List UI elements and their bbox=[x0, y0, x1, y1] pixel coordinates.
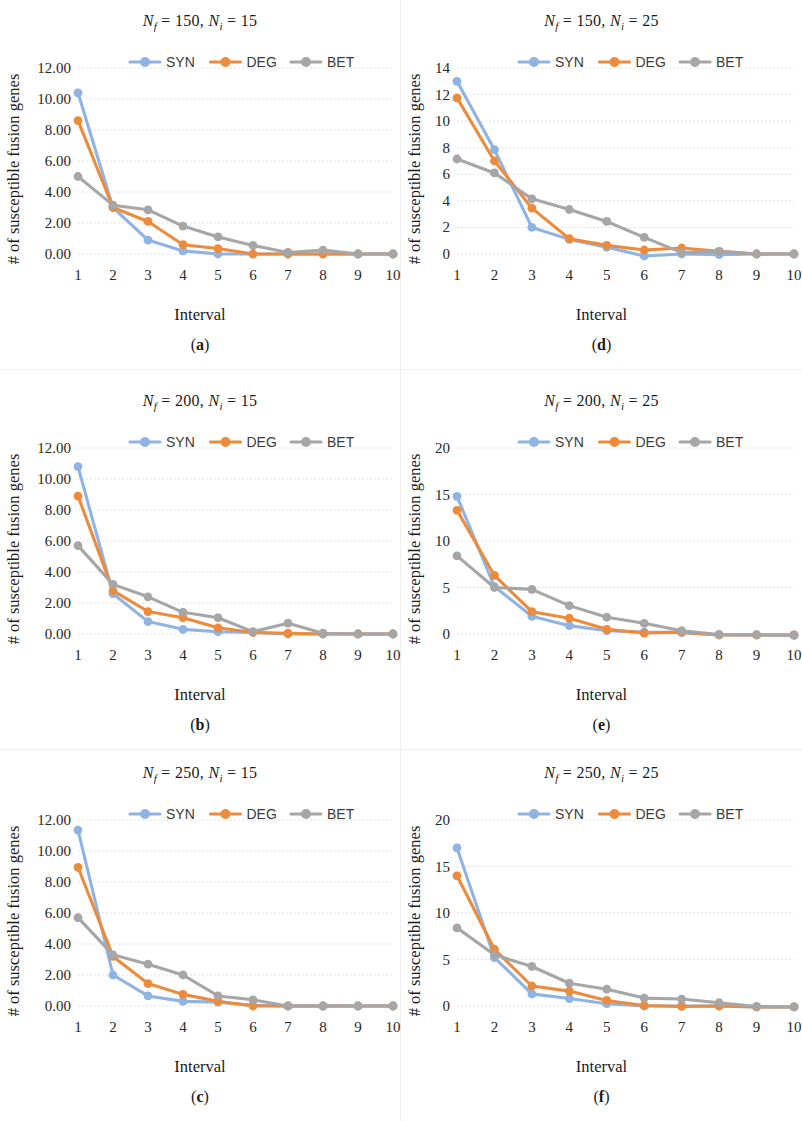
svg-text:8.00: 8.00 bbox=[45, 874, 71, 890]
chart-svg-a: 0.002.004.006.008.0010.0012.001234567891… bbox=[0, 36, 401, 301]
title-nf-value-c: 250 bbox=[175, 764, 200, 781]
svg-text:6: 6 bbox=[640, 1019, 648, 1035]
svg-text:BET: BET bbox=[716, 434, 744, 450]
chart-svg-b: 0.002.004.006.008.0010.0012.001234567891… bbox=[0, 416, 401, 681]
svg-text:15: 15 bbox=[435, 487, 450, 503]
svg-text:5: 5 bbox=[443, 952, 451, 968]
subfigure-label-b: (b) bbox=[0, 716, 400, 734]
svg-text:DEG: DEG bbox=[247, 806, 277, 822]
title-ni-value-d: 25 bbox=[642, 12, 659, 29]
svg-text:SYN: SYN bbox=[166, 806, 195, 822]
title-nf-value-b: 200 bbox=[175, 392, 200, 409]
svg-text:BET: BET bbox=[327, 54, 355, 70]
x-axis-label-b: Interval bbox=[0, 685, 400, 705]
plot-area-d: # of susceptible fusion genes 0246810121… bbox=[401, 36, 802, 301]
svg-text:10: 10 bbox=[435, 113, 450, 129]
svg-text:1: 1 bbox=[74, 267, 82, 283]
svg-text:2: 2 bbox=[109, 1019, 117, 1035]
svg-text:1: 1 bbox=[74, 647, 82, 663]
svg-text:DEG: DEG bbox=[636, 434, 666, 450]
svg-text:2: 2 bbox=[491, 1019, 499, 1035]
svg-text:20: 20 bbox=[435, 440, 450, 456]
svg-text:1: 1 bbox=[453, 267, 461, 283]
title-nf-value-a: 150 bbox=[175, 12, 200, 29]
svg-text:3: 3 bbox=[144, 1019, 152, 1035]
svg-text:12: 12 bbox=[435, 87, 450, 103]
svg-text:8.00: 8.00 bbox=[45, 122, 71, 138]
svg-text:8: 8 bbox=[715, 1019, 723, 1035]
chart-title-f: Nf = 250, Ni = 25 bbox=[401, 764, 802, 784]
svg-text:10.00: 10.00 bbox=[37, 91, 71, 107]
svg-text:7: 7 bbox=[678, 1019, 686, 1035]
svg-text:9: 9 bbox=[753, 1019, 761, 1035]
svg-text:0.00: 0.00 bbox=[45, 246, 71, 262]
svg-text:6: 6 bbox=[249, 1019, 257, 1035]
svg-text:9: 9 bbox=[753, 647, 761, 663]
svg-text:5: 5 bbox=[603, 267, 611, 283]
chart-panel-f: Nf = 250, Ni = 25 # of susceptible fusio… bbox=[401, 750, 802, 1121]
title-ni-value-a: 15 bbox=[241, 12, 258, 29]
subfigure-label-d: (d) bbox=[401, 336, 802, 354]
svg-text:DEG: DEG bbox=[636, 806, 666, 822]
svg-text:8: 8 bbox=[715, 647, 723, 663]
svg-text:10.00: 10.00 bbox=[37, 471, 71, 487]
svg-text:3: 3 bbox=[528, 1019, 536, 1035]
svg-text:10.00: 10.00 bbox=[37, 843, 71, 859]
svg-text:9: 9 bbox=[753, 267, 761, 283]
svg-text:12.00: 12.00 bbox=[37, 60, 71, 76]
svg-text:9: 9 bbox=[354, 647, 362, 663]
svg-text:1: 1 bbox=[74, 1019, 82, 1035]
svg-text:2: 2 bbox=[491, 267, 499, 283]
svg-text:8: 8 bbox=[319, 1019, 327, 1035]
x-axis-label-e: Interval bbox=[401, 685, 802, 705]
svg-text:6.00: 6.00 bbox=[45, 905, 71, 921]
svg-text:0.00: 0.00 bbox=[45, 626, 71, 642]
chart-panel-d: Nf = 150, Ni = 25 # of susceptible fusio… bbox=[401, 0, 802, 370]
svg-text:BET: BET bbox=[716, 54, 744, 70]
svg-text:8: 8 bbox=[319, 267, 327, 283]
svg-text:5: 5 bbox=[603, 1019, 611, 1035]
svg-text:5: 5 bbox=[214, 1019, 222, 1035]
svg-text:8: 8 bbox=[319, 647, 327, 663]
svg-text:2: 2 bbox=[109, 647, 117, 663]
svg-text:DEG: DEG bbox=[247, 434, 277, 450]
title-ni-value-e: 25 bbox=[642, 392, 659, 409]
svg-text:20: 20 bbox=[435, 812, 450, 828]
svg-text:BET: BET bbox=[327, 806, 355, 822]
svg-text:6: 6 bbox=[443, 166, 451, 182]
svg-text:7: 7 bbox=[678, 267, 686, 283]
svg-text:9: 9 bbox=[354, 267, 362, 283]
x-axis-label-c: Interval bbox=[0, 1057, 400, 1077]
svg-text:1: 1 bbox=[453, 647, 461, 663]
svg-text:3: 3 bbox=[528, 267, 536, 283]
svg-text:BET: BET bbox=[716, 806, 744, 822]
svg-text:10: 10 bbox=[787, 267, 802, 283]
title-nf-value-e: 200 bbox=[576, 392, 601, 409]
chart-svg-f: 0510152012345678910SYNDEGBET bbox=[401, 788, 802, 1053]
svg-text:1: 1 bbox=[453, 1019, 461, 1035]
x-axis-label-f: Interval bbox=[401, 1057, 802, 1077]
svg-text:5: 5 bbox=[603, 647, 611, 663]
svg-text:7: 7 bbox=[284, 647, 292, 663]
chart-panel-c: Nf = 250, Ni = 15 # of susceptible fusio… bbox=[0, 750, 401, 1121]
svg-text:6: 6 bbox=[249, 647, 257, 663]
svg-text:10: 10 bbox=[787, 1019, 802, 1035]
svg-text:DEG: DEG bbox=[247, 54, 277, 70]
chart-svg-d: 0246810121412345678910SYNDEGBET bbox=[401, 36, 802, 301]
subfigure-label-f: (f) bbox=[401, 1088, 802, 1106]
svg-text:4: 4 bbox=[443, 193, 451, 209]
subfigure-label-a: (a) bbox=[0, 336, 400, 354]
svg-text:6: 6 bbox=[640, 647, 648, 663]
plot-area-c: # of susceptible fusion genes 0.002.004.… bbox=[0, 788, 401, 1053]
svg-text:3: 3 bbox=[528, 647, 536, 663]
svg-text:3: 3 bbox=[144, 267, 152, 283]
svg-text:SYN: SYN bbox=[555, 54, 584, 70]
svg-text:4: 4 bbox=[179, 647, 187, 663]
subfigure-label-e: (e) bbox=[401, 716, 802, 734]
svg-text:2.00: 2.00 bbox=[45, 967, 71, 983]
svg-text:BET: BET bbox=[327, 434, 355, 450]
svg-text:10: 10 bbox=[787, 647, 802, 663]
svg-text:6.00: 6.00 bbox=[45, 533, 71, 549]
x-axis-label-a: Interval bbox=[0, 305, 400, 325]
svg-text:14: 14 bbox=[435, 60, 451, 76]
